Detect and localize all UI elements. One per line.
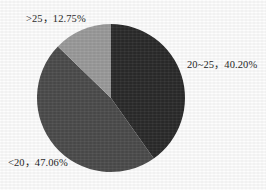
pie-chart-figure: >25，12.75% 20~25，40.20% <20，47.06%: [0, 0, 266, 190]
pie-label-lt20: <20，47.06%: [8, 157, 68, 169]
pie-label-20-25: 20~25，40.20%: [187, 59, 257, 71]
pie-label-gt25: >25，12.75%: [26, 13, 86, 25]
pie-slices: [37, 24, 185, 172]
